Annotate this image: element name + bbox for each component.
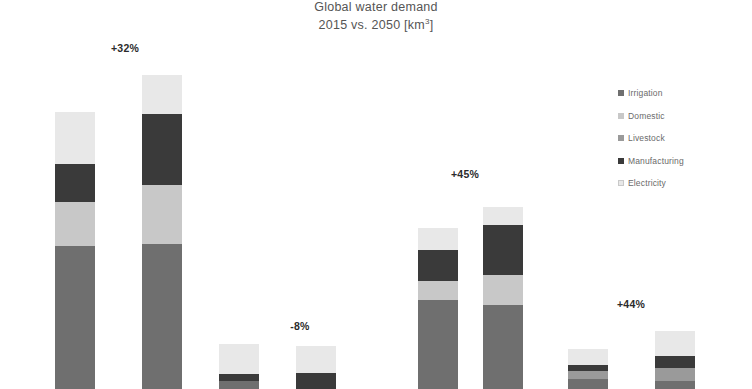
legend-swatch-manufacturing-icon	[618, 158, 624, 164]
legend-label: Irrigation	[628, 88, 663, 98]
bar-segment-electricity	[568, 349, 608, 365]
bar-segment-electricity	[296, 346, 336, 373]
change-label-group4: +44%	[596, 298, 666, 310]
legend-swatch-livestock-icon	[618, 135, 624, 141]
bar-segment-domestic	[55, 202, 95, 246]
change-label-group2: -8%	[265, 320, 335, 332]
bar-segment-manufacturing	[296, 373, 336, 389]
bar-segment-manufacturing	[418, 250, 458, 281]
bar-segment-irrigation	[568, 379, 608, 389]
change-label-group1: +32%	[90, 42, 160, 54]
legend-item-electricity[interactable]: Electricity	[618, 172, 746, 195]
bar-segment-electricity	[655, 331, 695, 356]
legend-swatch-electricity-icon	[618, 180, 624, 186]
legend-item-livestock[interactable]: Livestock	[618, 127, 746, 150]
legend-item-domestic[interactable]: Domestic	[618, 105, 746, 128]
legend-label: Livestock	[628, 133, 665, 143]
bar-segment-irrigation	[655, 381, 695, 389]
legend-label: Manufacturing	[628, 156, 684, 166]
bar-group3-2050	[483, 207, 523, 389]
legend-swatch-domestic-icon	[618, 113, 624, 119]
legend-item-irrigation[interactable]: Irrigation	[618, 82, 746, 105]
legend-label: Domestic	[628, 111, 665, 121]
bar-segment-domestic	[418, 281, 458, 300]
bar-group1-2050	[142, 75, 182, 389]
plot-area: +32%-8%+45%+44%	[0, 0, 752, 389]
bar-segment-livestock	[655, 368, 695, 381]
bar-segment-electricity	[483, 207, 523, 225]
bar-segment-livestock	[568, 371, 608, 379]
bar-segment-electricity	[219, 344, 259, 374]
bar-segment-domestic	[142, 185, 182, 244]
bar-segment-irrigation	[418, 300, 458, 389]
bar-group4-2015	[568, 349, 608, 389]
bar-segment-electricity	[142, 75, 182, 114]
bar-segment-manufacturing	[142, 114, 182, 185]
bar-segment-manufacturing	[219, 374, 259, 381]
change-label-group3: +45%	[430, 168, 500, 180]
chart-canvas: Global water demand 2015 vs. 2050 [km3] …	[0, 0, 752, 389]
bar-segment-manufacturing	[55, 164, 95, 202]
bar-segment-manufacturing	[655, 356, 695, 368]
bar-group3-2015	[418, 228, 458, 389]
legend-swatch-irrigation-icon	[618, 90, 624, 96]
bar-segment-irrigation	[219, 381, 259, 389]
bar-segment-irrigation	[55, 246, 95, 389]
bar-segment-domestic	[483, 275, 523, 305]
bar-segment-manufacturing	[483, 225, 523, 275]
legend-item-manufacturing[interactable]: Manufacturing	[618, 150, 746, 173]
bar-group4-2050	[655, 331, 695, 389]
bar-segment-electricity	[55, 112, 95, 164]
chart-legend: IrrigationDomesticLivestockManufacturing…	[618, 82, 746, 195]
bar-segment-irrigation	[483, 305, 523, 389]
legend-label: Electricity	[628, 178, 666, 188]
bar-group2-2050	[296, 346, 336, 389]
bar-group1-2015	[55, 112, 95, 389]
bar-segment-electricity	[418, 228, 458, 250]
bar-segment-irrigation	[142, 244, 182, 389]
bar-group2-2015	[219, 344, 259, 389]
